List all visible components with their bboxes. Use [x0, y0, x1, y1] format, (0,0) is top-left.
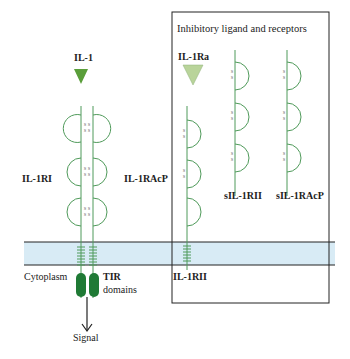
tir-domain-left	[76, 273, 86, 297]
il1racp-label: IL-1RAcP	[124, 174, 168, 184]
svg-text:S: S	[88, 128, 91, 133]
sil1racp-receptor	[287, 50, 301, 196]
il1-label: IL-1	[74, 53, 93, 63]
il1rii-label: IL-1RII	[173, 272, 207, 282]
svg-text:S: S	[183, 168, 186, 173]
disulfide-marks-inhibitory: SS SS SS SS SS SS SS SS	[183, 69, 286, 179]
svg-text:S: S	[88, 212, 91, 217]
il1ra-label: IL-1Ra	[178, 52, 209, 62]
svg-text:S: S	[283, 116, 286, 121]
svg-text:S: S	[283, 69, 286, 74]
il1-receptor-diagram: SS SS SS SS SS SS SS SS SS	[0, 0, 350, 359]
svg-text:S: S	[84, 212, 87, 217]
svg-text:S: S	[84, 172, 87, 177]
svg-text:S: S	[183, 128, 186, 133]
svg-text:S: S	[84, 206, 87, 211]
il1racp-receptor	[89, 106, 111, 298]
svg-text:S: S	[183, 134, 186, 139]
svg-text:S: S	[231, 116, 234, 121]
svg-text:S: S	[84, 128, 87, 133]
disulfide-marks: SS SS SS SS SS SS	[84, 122, 91, 217]
il1-ligand-triangle	[74, 69, 88, 84]
signal-label: Signal	[73, 333, 99, 343]
inhibitory-box-title: Inhibitory ligand and receptors	[177, 24, 307, 35]
il1ri-receptor	[63, 106, 85, 298]
svg-text:S: S	[84, 166, 87, 171]
sil1racp-label: sIL-1RAcP	[276, 191, 324, 201]
cell-membrane	[24, 242, 335, 265]
svg-text:S: S	[283, 110, 286, 115]
signal-arrow-icon	[82, 297, 92, 331]
cytoplasm-label: Cytoplasm	[24, 272, 67, 282]
svg-text:S: S	[88, 172, 91, 177]
svg-text:S: S	[231, 75, 234, 80]
svg-text:S: S	[88, 206, 91, 211]
sil1rii-label: sIL-1RII	[224, 191, 262, 201]
svg-text:S: S	[88, 166, 91, 171]
svg-text:S: S	[84, 122, 87, 127]
svg-text:S: S	[231, 110, 234, 115]
il1ri-label: IL-1RI	[22, 174, 52, 184]
svg-text:S: S	[88, 122, 91, 127]
svg-text:S: S	[183, 174, 186, 179]
svg-text:S: S	[231, 69, 234, 74]
svg-text:S: S	[231, 151, 234, 156]
svg-text:S: S	[283, 75, 286, 80]
svg-text:S: S	[231, 157, 234, 162]
tir-label: TIR	[103, 272, 121, 282]
svg-text:S: S	[283, 157, 286, 162]
il1ra-triangle	[183, 65, 203, 85]
tir-domain-right	[89, 273, 99, 297]
domains-label: domains	[103, 285, 137, 295]
svg-text:S: S	[283, 151, 286, 156]
sil1rii-receptor	[235, 50, 249, 196]
